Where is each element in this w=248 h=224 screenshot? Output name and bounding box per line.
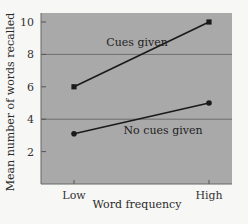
x-axis-title: Word frequency [93,198,183,211]
y-tick-label: 6 [27,81,34,94]
y-axis-title: Mean number of words recalled [4,13,17,192]
square-marker [71,84,76,89]
line-chart: 246810 LowHigh Cues givenNo cues given W… [0,0,248,224]
series-label: Cues given [106,36,168,49]
x-tick-label: Low [62,189,86,202]
y-tick-label: 8 [27,48,34,61]
y-tick-label: 10 [20,16,34,29]
y-tick-label: 4 [27,113,34,126]
circle-marker [206,100,212,106]
x-tick-label: High [195,189,222,202]
square-marker [206,19,211,24]
y-tick-label: 2 [27,146,34,159]
series-label: No cues given [123,124,202,137]
circle-marker [71,131,77,137]
